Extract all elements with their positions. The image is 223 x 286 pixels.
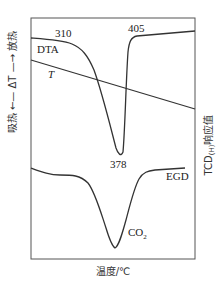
label-310: 310 [55, 27, 72, 39]
label-dta: DTA [37, 43, 59, 55]
x-axis-label: 温度/℃ [96, 265, 131, 277]
label-405: 405 [128, 22, 145, 34]
y-axis-right-label: TCD(H)响应值 [202, 115, 216, 177]
y-axis-left-label: 吸热 ←— ΔT —→ 放热 [6, 31, 18, 133]
label-378: 378 [110, 158, 127, 170]
label-egd: EGD [166, 170, 189, 182]
egd-curve [31, 168, 185, 248]
chart-figure: 310 DTA T 405 378 EGD CO2 温度/℃ 吸热 ←— ΔT … [0, 0, 223, 286]
label-t: T [48, 68, 55, 80]
label-co2: CO2 [128, 226, 147, 241]
temperature-line [31, 60, 195, 109]
